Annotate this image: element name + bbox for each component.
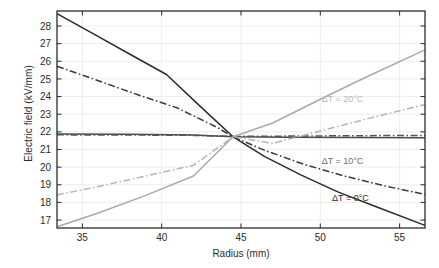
annotation-label-2: ΔT = 0°C: [332, 193, 369, 203]
annotation-label-0: ΔT = 20°C: [322, 94, 364, 104]
y-tick-label: 20: [40, 162, 52, 173]
y-axis-label: Electric field (kV/mm): [23, 34, 34, 194]
axis-ticks: 3540455055171819202122232425262728: [40, 11, 425, 243]
y-tick-label: 17: [40, 215, 52, 226]
annotation-label-1: ΔT = 10°C: [322, 156, 364, 166]
y-tick-label: 19: [40, 179, 52, 190]
figure: Electric field (kV/mm) Radius (mm) 35404…: [0, 0, 439, 268]
x-axis-label: Radius (mm): [57, 248, 425, 259]
y-tick-label: 18: [40, 197, 52, 208]
y-tick-label: 22: [40, 126, 52, 137]
line-chart-plot: 3540455055171819202122232425262728ΔT = 2…: [0, 0, 439, 268]
x-tick-label: 35: [77, 232, 89, 243]
y-tick-label: 26: [40, 56, 52, 67]
y-tick-label: 25: [40, 74, 52, 85]
x-tick-label: 50: [315, 232, 327, 243]
y-tick-label: 21: [40, 144, 52, 155]
x-tick-label: 45: [235, 232, 247, 243]
x-tick-label: 55: [394, 232, 406, 243]
y-tick-label: 28: [40, 21, 52, 32]
y-tick-label: 27: [40, 38, 52, 49]
y-tick-label: 23: [40, 109, 52, 120]
x-tick-label: 40: [156, 232, 168, 243]
y-tick-label: 24: [40, 91, 52, 102]
